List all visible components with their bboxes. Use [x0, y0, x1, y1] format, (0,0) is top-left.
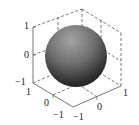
z-tick-label-0: 0 [24, 50, 29, 60]
y-tick-label-1: 1 [26, 87, 31, 97]
x-tick-label-1: 1 [123, 88, 128, 98]
z-tick-label-minus1: −1 [15, 77, 26, 87]
z-tick-label-1: 1 [24, 21, 29, 31]
x-tick-label-minus1: −1 [73, 112, 84, 122]
sphere-surface [45, 25, 107, 87]
y-tick-label-minus1: −1 [53, 110, 64, 120]
x-tick-label-0: 0 [97, 102, 102, 112]
y-tick-label-0: 0 [44, 98, 49, 108]
sphere-3d-plot [0, 0, 139, 125]
